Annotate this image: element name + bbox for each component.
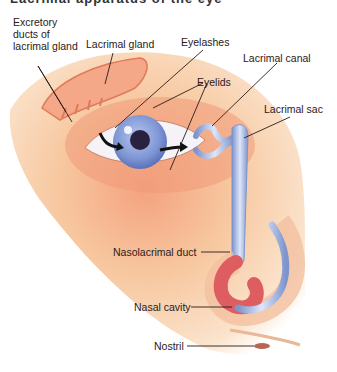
label-excretory-ducts: Excretory ducts of lacrimal gland — [13, 16, 83, 52]
label-lacrimal-sac: Lacrimal sac — [264, 103, 323, 115]
label-nasal-cavity: Nasal cavity — [134, 301, 191, 313]
label-eyelashes: Eyelashes — [181, 36, 229, 48]
label-nostril: Nostril — [154, 340, 184, 352]
pupil — [130, 130, 150, 150]
label-lacrimal-gland: Lacrimal gland — [86, 38, 154, 50]
label-eyelids: Eyelids — [197, 76, 231, 88]
label-lacrimal-canal: Lacrimal canal — [243, 52, 311, 64]
label-nasolacrimal-duct: Nasolacrimal duct — [113, 246, 196, 258]
lacrimal-apparatus-diagram: Lacrimal apparatus of the eye — [0, 0, 337, 372]
nostril-shape — [254, 343, 270, 349]
